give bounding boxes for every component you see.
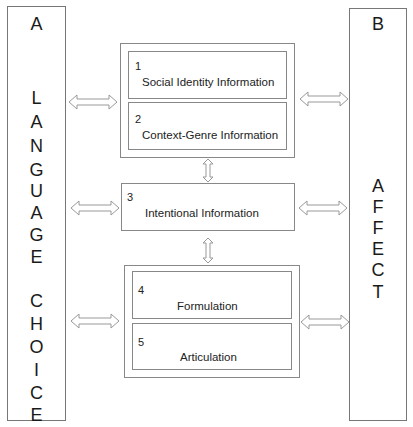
box-number: 3	[127, 191, 133, 203]
letter: L	[8, 89, 65, 107]
letter: F	[350, 219, 406, 237]
double-arrow-icon	[300, 314, 350, 330]
letter: F	[350, 198, 406, 216]
letter: C	[350, 261, 406, 279]
column-a-header: A	[8, 15, 65, 33]
language-choice-column: A L A N G U A G E C H O I C E	[7, 6, 66, 421]
letter: E	[8, 248, 65, 266]
box-context-genre: 2 Context-Genre Information	[128, 102, 287, 150]
letter: C	[8, 384, 65, 402]
box-articulation: 5 Articulation	[132, 323, 292, 370]
box-intentional: 3 Intentional Information	[121, 183, 295, 231]
box-label: Formulation	[177, 300, 238, 312]
box-label: Context-Genre Information	[142, 129, 278, 141]
vertical-double-arrow-icon	[202, 237, 214, 264]
letter: A	[8, 113, 65, 131]
box-label: Articulation	[180, 351, 237, 363]
box-formulation: 4 Formulation	[132, 271, 292, 319]
letter: O	[8, 338, 65, 356]
letter: U	[8, 182, 65, 200]
letter: N	[8, 137, 65, 155]
box-label: Social Identity Information	[142, 76, 274, 88]
letter: C	[8, 292, 65, 310]
box-number: 5	[138, 336, 144, 348]
box-social-identity: 1 Social Identity Information	[128, 51, 287, 99]
letter: G	[8, 161, 65, 179]
letter: G	[8, 226, 65, 244]
letter: H	[8, 315, 65, 333]
letter: E	[350, 240, 406, 258]
letter: T	[350, 283, 406, 301]
affect-column: B A F F E C T	[349, 8, 407, 421]
double-arrow-icon	[68, 94, 118, 110]
box-number: 2	[135, 113, 141, 125]
vertical-double-arrow-icon	[202, 158, 214, 183]
letter: I	[8, 361, 65, 379]
box-label: Intentional Information	[145, 207, 259, 219]
group-identity-context: 1 Social Identity Information 2 Context-…	[120, 43, 295, 158]
letter: A	[350, 177, 406, 195]
letter: E	[8, 406, 65, 424]
double-arrow-icon	[298, 200, 348, 216]
double-arrow-icon	[299, 91, 349, 107]
box-number: 4	[138, 284, 144, 296]
double-arrow-icon	[70, 200, 120, 216]
letter: A	[8, 204, 65, 222]
column-b-header: B	[350, 15, 406, 33]
box-number: 1	[135, 60, 141, 72]
group-formulation-articulation: 4 Formulation 5 Articulation	[124, 265, 300, 378]
double-arrow-icon	[70, 313, 120, 329]
